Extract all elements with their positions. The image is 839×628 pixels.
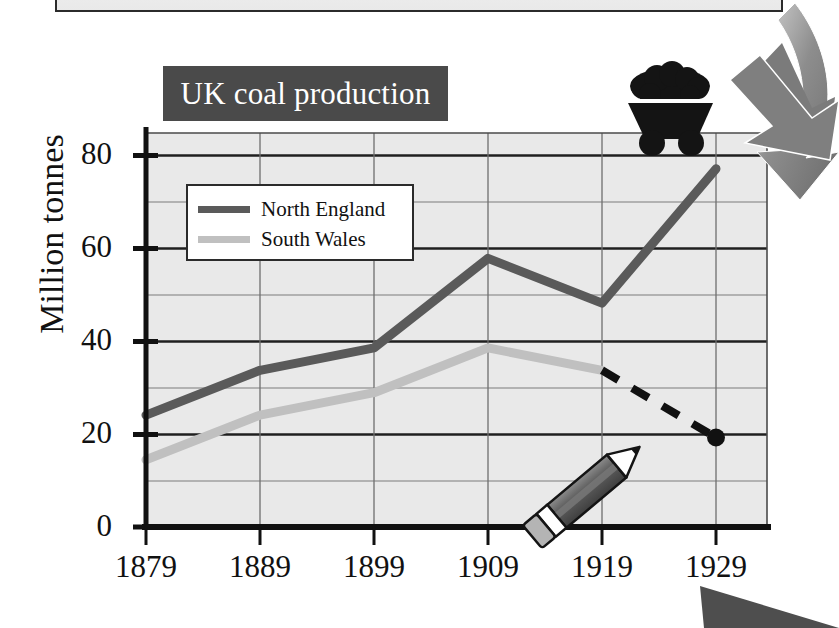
screenshot-stage: Million tonnes 0 20 40 60 80 1879 1889 1… (0, 0, 839, 628)
x-tick-label-1929: 1929 (661, 549, 771, 585)
triangle-arrow-icon (700, 586, 839, 628)
x-tick-label-1909: 1909 (433, 549, 543, 585)
y-tick-label-0: 0 (42, 508, 112, 544)
y-tick-label-60: 60 (42, 229, 112, 265)
y-tick-label-40: 40 (42, 322, 112, 358)
legend-item-north-england: North England (188, 194, 412, 224)
chart-title-text: UK coal production (181, 76, 431, 112)
y-tick-label-80: 80 (42, 136, 112, 172)
chart-title-banner: UK coal production (163, 66, 448, 121)
x-tick-label-1899: 1899 (319, 549, 429, 585)
legend-swatch-north-england (198, 206, 250, 213)
x-tick-label-1919: 1919 (547, 549, 657, 585)
legend-label-north-england: North England (261, 197, 385, 222)
legend-label-south-wales: South Wales (261, 227, 366, 252)
x-tick-label-1889: 1889 (205, 549, 315, 585)
y-tick-label-20: 20 (42, 415, 112, 451)
x-tick-label-1879: 1879 (91, 549, 201, 585)
chart-legend: North England South Wales (186, 184, 414, 261)
legend-item-south-wales: South Wales (188, 224, 412, 254)
legend-swatch-south-wales (198, 236, 250, 243)
projection-endpoint-marker (707, 429, 725, 447)
